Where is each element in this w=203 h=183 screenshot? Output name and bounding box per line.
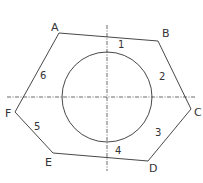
side-label-6: 6 — [40, 70, 46, 81]
vertex-labels: A B C D E F — [5, 21, 202, 175]
diagram-canvas: A B C D E F 1 2 3 4 5 6 — [0, 0, 203, 183]
vertex-label-a: A — [51, 21, 59, 34]
vertex-label-d: D — [149, 162, 157, 175]
side-label-4: 4 — [115, 145, 121, 156]
side-label-1: 1 — [118, 39, 124, 50]
vertex-label-f: F — [5, 107, 11, 120]
vertex-label-c: C — [194, 106, 202, 119]
side-label-3: 3 — [155, 127, 161, 138]
side-label-2: 2 — [159, 71, 165, 82]
vertex-label-e: E — [45, 156, 52, 169]
side-labels: 1 2 3 4 5 6 — [34, 39, 165, 156]
vertex-label-b: B — [162, 27, 170, 40]
hexagon-diagram: A B C D E F 1 2 3 4 5 6 — [0, 0, 203, 183]
side-label-5: 5 — [34, 121, 40, 132]
